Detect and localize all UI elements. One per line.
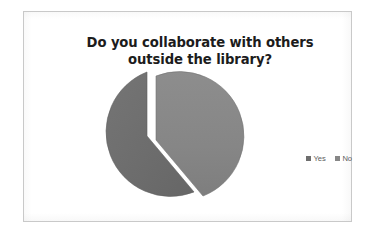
figure-frame: Do you collaborate with others outside t… — [23, 11, 352, 222]
chart-legend: Yes No — [306, 150, 372, 166]
legend-entry-no[interactable]: No — [335, 154, 352, 163]
legend-swatch-yes-icon — [306, 156, 311, 161]
legend-label-yes: Yes — [314, 154, 326, 163]
pie-chart — [72, 68, 258, 218]
legend-entry-yes[interactable]: Yes — [306, 154, 326, 163]
slide-canvas: Do you collaborate with others outside t… — [0, 0, 376, 241]
legend-label-no: No — [342, 154, 352, 163]
legend-swatch-no-icon — [335, 156, 340, 161]
chart-area: Do you collaborate with others outside t… — [48, 24, 375, 233]
plot-region: Yes No — [48, 24, 375, 233]
